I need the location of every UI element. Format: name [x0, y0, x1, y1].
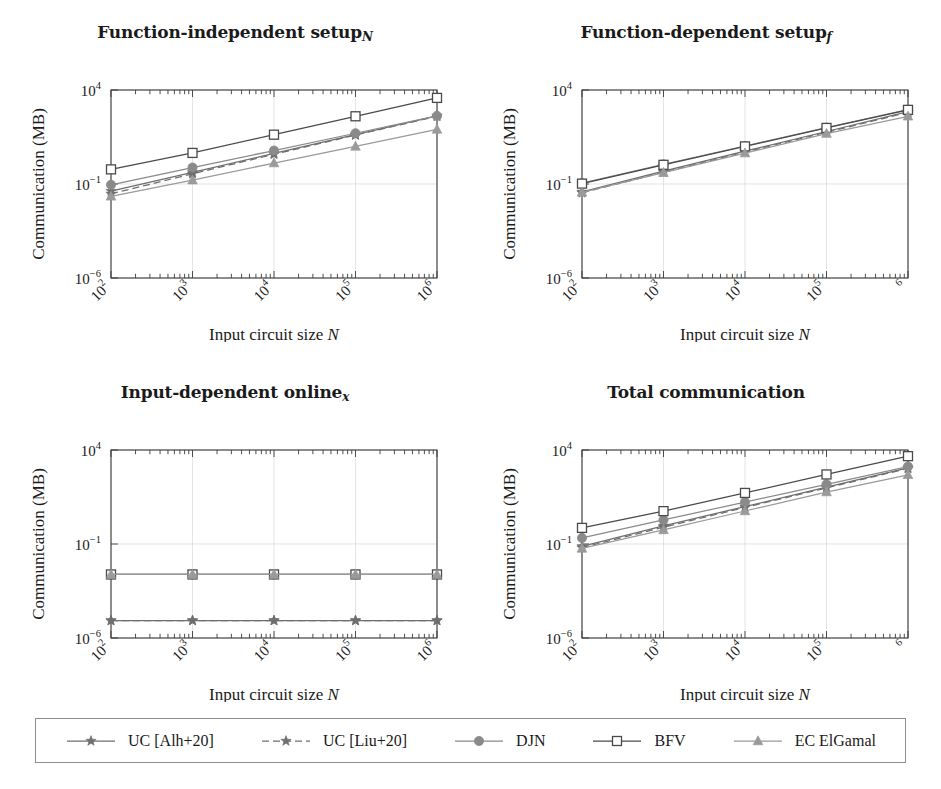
legend-label: EC ElGamal [795, 732, 876, 750]
square-marker [433, 93, 442, 102]
svg-text:105: 105 [330, 277, 358, 305]
legend-sample-triangle-marker [732, 732, 784, 750]
chart-title: Function-independent setupN [0, 22, 470, 44]
x-axis-label: Input circuit size N [209, 685, 341, 702]
y-axis-label: Communication (MB) [500, 108, 519, 260]
series-legend: UC [Alh+20]UC [Liu+20]DJNBFVEC ElGamal [35, 718, 906, 763]
legend-sample-star-marker [260, 732, 312, 750]
square-marker [659, 507, 668, 516]
legend-items: UC [Alh+20]UC [Liu+20]DJNBFVEC ElGamal [36, 719, 905, 762]
svg-text:103: 103 [167, 637, 195, 665]
svg-text:105: 105 [801, 277, 829, 305]
square-marker [578, 523, 587, 532]
x-tick-label: 106 [411, 277, 439, 305]
chart-title-subscript: x [342, 390, 349, 404]
x-tick-label: 105 [801, 277, 829, 305]
x-tick-label: 105 [330, 637, 358, 665]
x-tick-label: 103 [167, 637, 195, 665]
circle-marker [188, 163, 197, 172]
svg-text:103: 103 [638, 277, 666, 305]
svg-text:104: 104 [248, 636, 276, 664]
star-marker [281, 735, 291, 745]
svg-text:103: 103 [638, 637, 666, 665]
legend-label: UC [Alh+20] [128, 732, 214, 750]
gridlines [582, 450, 908, 638]
plot-area: 10410−110−6102103104105106Communication … [0, 382, 470, 702]
x-tick-label: 104 [248, 276, 276, 304]
square-marker [351, 112, 360, 121]
legend-sample-circle-marker [453, 732, 505, 750]
svg-text:103: 103 [167, 277, 195, 305]
svg-text:104: 104 [719, 636, 747, 664]
x-tick-label: 103 [638, 637, 666, 665]
svg-text:104: 104 [248, 276, 276, 304]
chart-title-text: Total communication [607, 382, 805, 402]
x-tick-label: 105 [330, 277, 358, 305]
x-tick-label: 104 [248, 636, 276, 664]
chart-title: Input-dependent onlinex [0, 382, 470, 404]
chart-title-subscript: N [362, 30, 373, 44]
circle-marker [351, 129, 360, 138]
y-axis-label: Communication (MB) [29, 108, 48, 260]
tick-labels: 10410−110−61021031041056 [546, 440, 905, 664]
chart-panel-total-communication: Total communication 10410−110−6102103104… [471, 382, 941, 722]
y-tick-label: 104 [552, 440, 573, 459]
svg-text:104: 104 [719, 276, 747, 304]
plot-area: 10410−110−61021031041056Communication (M… [471, 382, 941, 702]
svg-text:105: 105 [801, 637, 829, 665]
gridlines [111, 450, 437, 638]
chart-title: Total communication [471, 382, 941, 404]
y-tick-label: 104 [552, 80, 573, 99]
legend-label: DJN [516, 732, 545, 750]
circle-marker [269, 146, 278, 155]
gridlines [582, 90, 908, 278]
circle-marker [659, 515, 668, 524]
circle-marker [432, 111, 441, 120]
y-tick-label: 10−1 [546, 174, 572, 193]
square-marker [741, 488, 750, 497]
square-marker [188, 148, 197, 157]
tick-labels: 10410−110−6102103104105106 [75, 440, 439, 664]
legend-item-uc_liu20[interactable]: UC [Liu+20] [260, 732, 407, 750]
chart-title-text: Input-dependent online [121, 382, 342, 402]
legend-sample-square-marker [591, 732, 643, 750]
plot-area: 10410−110−6102103104105106Communication … [0, 22, 470, 342]
triangle-marker [903, 470, 913, 479]
y-tick-label: 10−1 [75, 174, 101, 193]
x-tick-label: 105 [801, 637, 829, 665]
x-axis-label: Input circuit size N [680, 685, 812, 702]
chart-panel-function-independent-setup: Function-independent setupN 10410−110−61… [0, 22, 470, 362]
y-axis-label: Communication (MB) [29, 468, 48, 620]
legend-item-ec_elgamal[interactable]: EC ElGamal [732, 732, 876, 750]
plot-area: 10410−110−61021031041056Communication (M… [471, 22, 941, 342]
legend-item-bfv[interactable]: BFV [591, 732, 685, 750]
x-tick-label: 104 [719, 276, 747, 304]
chart-title-text: Function-dependent setup [580, 22, 826, 42]
star-marker [86, 735, 96, 745]
circle-marker [106, 180, 115, 189]
x-tick-label: 104 [719, 636, 747, 664]
chart-title: Function-dependent setupf [471, 22, 941, 44]
x-tick-label: 106 [411, 637, 439, 665]
triangle-marker [753, 735, 763, 744]
legend-item-djn[interactable]: DJN [453, 732, 545, 750]
x-axis-label: Input circuit size N [209, 325, 341, 342]
y-tick-label: 104 [81, 80, 102, 99]
chart-panel-function-dependent-setup: Function-dependent setupf 10410−110−6102… [471, 22, 941, 362]
circle-marker [577, 533, 586, 542]
svg-text:106: 106 [411, 637, 439, 665]
square-marker [613, 736, 622, 745]
square-marker [107, 165, 116, 174]
x-tick-label: 103 [167, 277, 195, 305]
chart-title-text: Function-independent setup [97, 22, 362, 42]
chart-panel-input-dependent-online: Input-dependent onlinex 10410−110−610210… [0, 382, 470, 722]
svg-text:105: 105 [330, 637, 358, 665]
legend-label: UC [Liu+20] [323, 732, 407, 750]
y-tick-label: 10−1 [75, 534, 101, 553]
y-tick-label: 104 [81, 440, 102, 459]
circle-marker [475, 736, 484, 745]
y-tick-label: 10−1 [546, 534, 572, 553]
legend-item-uc_alh20[interactable]: UC [Alh+20] [65, 732, 214, 750]
y-axis-label: Communication (MB) [500, 468, 519, 620]
legend-sample-star-marker [65, 732, 117, 750]
